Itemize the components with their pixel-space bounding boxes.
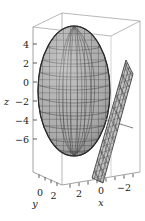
ellipsoid-surface [38, 26, 110, 156]
y-axis-label: y [31, 198, 38, 209]
x-tick-0: 0 [98, 185, 104, 196]
x-tick-neg2: −2 [117, 182, 131, 193]
z-axis [33, 44, 37, 139]
z-tick-neg2: −2 [15, 96, 29, 107]
z-tick-0: 0 [23, 77, 29, 88]
x-axis-label: x [98, 197, 104, 208]
figure-3d-surface-plot: 4 2 0 −2 −4 −6 z 0 2 y 2 0 −2 x [0, 0, 145, 221]
z-tick-4: 4 [23, 39, 29, 50]
y-tick-0: 0 [37, 187, 43, 198]
x-tick-2: 2 [76, 188, 82, 199]
y-tick-2: 2 [50, 190, 56, 201]
z-tick-neg6: −6 [15, 134, 29, 145]
z-axis-label: z [3, 96, 10, 107]
z-tick-neg4: −4 [15, 115, 29, 126]
plot-canvas: 4 2 0 −2 −4 −6 z 0 2 y 2 0 −2 x [0, 0, 145, 221]
z-tick-2: 2 [23, 58, 29, 69]
